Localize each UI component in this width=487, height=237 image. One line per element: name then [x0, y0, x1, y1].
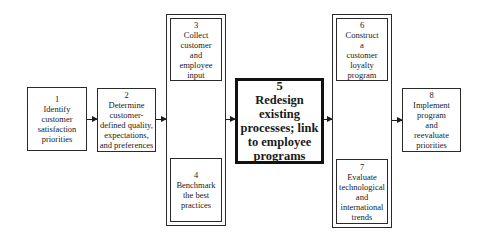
- step-8-box: 8 Implement program and reevaluate prior…: [402, 88, 461, 152]
- step-6-line: program: [348, 70, 377, 80]
- step-1-number: 1: [55, 94, 59, 104]
- step-3-line: input: [187, 70, 204, 80]
- step-4-line: Benchmark: [176, 180, 215, 190]
- step-2-line: defined quality,: [100, 120, 153, 130]
- step-8-line: program: [417, 110, 446, 120]
- step-3-line: customer: [180, 40, 211, 50]
- step-5-number: 5: [276, 79, 282, 93]
- step-5-line: existing: [259, 107, 300, 121]
- step-5-line: Redesign: [255, 93, 304, 107]
- step-7-line: international: [341, 202, 384, 212]
- step-1-line: priorities: [42, 134, 73, 144]
- step-2-line: Determine: [109, 100, 145, 110]
- step-5-line: programs: [254, 149, 306, 163]
- arrow-2-to-group-3-4: [156, 119, 166, 120]
- step-7-line: and: [356, 192, 368, 202]
- step-3-line: Collect: [184, 30, 209, 40]
- arrow-group-6-7-to-8: [392, 120, 402, 121]
- arrow-group-3-4-to-5: [226, 119, 235, 120]
- step-8-line: priorities: [416, 140, 447, 150]
- step-2-line: expectations,: [104, 130, 149, 140]
- step-1-line: customer: [41, 114, 72, 124]
- step-6-number: 6: [360, 20, 364, 30]
- step-2-line: customer-: [110, 110, 144, 120]
- step-4-number: 4: [194, 170, 198, 180]
- step-5-line: processes; link: [241, 121, 319, 135]
- step-8-line: reevaluate: [414, 130, 449, 140]
- step-6-box: 6 Construct a customer loyalty program: [336, 18, 388, 81]
- step-6-line: loyalty: [350, 60, 374, 70]
- step-7-box: 7 Evaluate technological and internation…: [336, 159, 388, 224]
- step-2-number: 2: [124, 90, 128, 100]
- step-3-number: 3: [194, 20, 198, 30]
- step-3-box: 3 Collect customer and employee input: [170, 18, 222, 81]
- step-7-line: technological: [339, 182, 385, 192]
- step-7-line: Evaluate: [347, 172, 377, 182]
- step-4-line: practices: [181, 200, 211, 210]
- step-5-line: to employee: [248, 135, 312, 149]
- step-8-number: 8: [429, 90, 433, 100]
- arrow-1-to-2: [87, 119, 97, 120]
- step-4-line: the best: [183, 190, 209, 200]
- step-4-box: 4 Benchmark the best practices: [170, 158, 222, 222]
- step-2-line: and preferences: [100, 140, 154, 150]
- step-1-box: 1 Identify customer satisfaction priorit…: [27, 87, 87, 151]
- arrow-5-to-group-6-7: [324, 119, 332, 120]
- step-3-line: and: [190, 50, 202, 60]
- step-5-box: 5 Redesign existing processes; link to e…: [235, 78, 324, 164]
- step-8-line: Implement: [413, 100, 450, 110]
- step-7-number: 7: [360, 162, 364, 172]
- step-7-line: trends: [352, 212, 373, 222]
- step-2-box: 2 Determine customer- defined quality, e…: [97, 88, 156, 152]
- step-8-line: and: [425, 120, 437, 130]
- step-6-line: Construct: [345, 30, 378, 40]
- step-6-line: a: [360, 40, 364, 50]
- step-3-line: employee: [179, 60, 212, 70]
- step-6-line: customer: [346, 50, 377, 60]
- step-1-line: Identify: [44, 104, 71, 114]
- step-1-line: satisfaction: [38, 124, 77, 134]
